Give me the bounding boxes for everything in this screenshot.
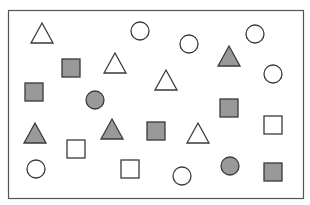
gray-square-icon	[147, 122, 165, 140]
white-square-icon	[67, 140, 85, 158]
white-square-icon	[121, 160, 139, 178]
white-circle-icon	[173, 167, 191, 185]
white-circle-icon	[131, 22, 149, 40]
gray-square-icon	[62, 59, 80, 77]
white-square-icon	[264, 116, 282, 134]
shapes-figure	[0, 0, 310, 205]
gray-square-icon	[25, 83, 43, 101]
white-circle-icon	[264, 65, 282, 83]
gray-circle-icon	[86, 91, 104, 109]
gray-square-icon	[220, 99, 238, 117]
gray-square-icon	[264, 163, 282, 181]
gray-circle-icon	[221, 157, 239, 175]
white-circle-icon	[27, 160, 45, 178]
white-circle-icon	[246, 25, 264, 43]
white-circle-icon	[180, 35, 198, 53]
